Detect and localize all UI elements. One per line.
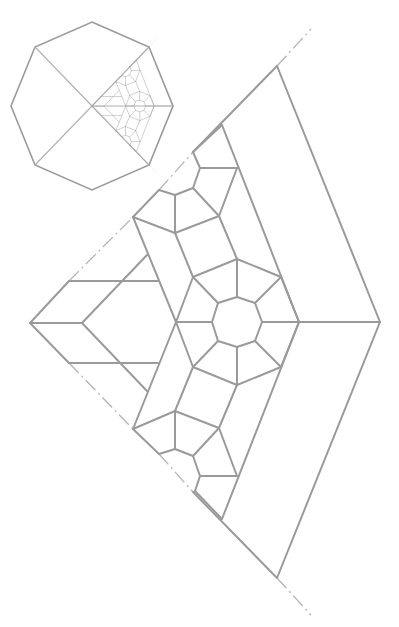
thumbnail-pattern bbox=[92, 38, 173, 173]
thumbnail-octagon bbox=[11, 22, 173, 190]
main-pattern bbox=[30, 29, 380, 615]
diagram-canvas bbox=[0, 0, 399, 627]
